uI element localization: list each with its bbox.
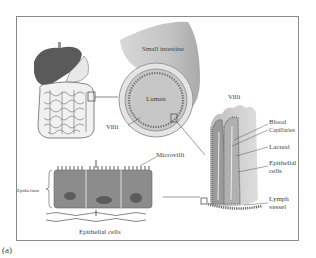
digestive-system-icon: [34, 42, 95, 138]
label-lymph-vessel: vessel: [269, 204, 286, 211]
label-epithelium: Epithelium: [17, 188, 39, 193]
label-epithelial-cells-2: cells: [269, 168, 282, 175]
label-capillaries: Capillaries: [269, 127, 295, 133]
villi-icon: [201, 105, 262, 209]
label-blood: Blood: [269, 119, 286, 126]
small-intestine-icon: [119, 22, 200, 137]
label-villi-title: Villi: [228, 94, 240, 101]
label-lumen: Lumen: [146, 96, 166, 103]
label-villi-circle: Villi: [106, 124, 118, 131]
epithelial-cells-icon: [46, 157, 156, 222]
label-microvilli: Microvilli: [156, 152, 184, 159]
label-epithelial-cells-bottom: Epithelial cells: [79, 229, 121, 236]
figure-caption: (a): [2, 245, 12, 255]
label-lacteal: Lacteal: [269, 144, 290, 151]
label-small-intestine: Small intestine: [142, 46, 184, 53]
